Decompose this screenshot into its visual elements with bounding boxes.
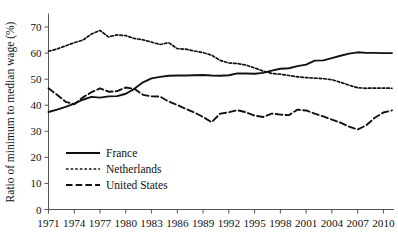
- chart-container: Ratio of minimum to median wage (%) 0102…: [0, 0, 398, 242]
- y-tick-label: 10: [31, 177, 43, 189]
- x-tick-label: 1971: [37, 217, 59, 229]
- x-tick-label: 1974: [63, 217, 86, 229]
- y-axis-title-text: Ratio of minimum to median wage (%): [4, 21, 17, 202]
- chart-axes: [49, 14, 395, 210]
- chart-series: [49, 30, 393, 129]
- y-tick-label: 70: [31, 21, 43, 33]
- x-tick-label: 1989: [192, 217, 215, 229]
- x-tick-label: 1998: [269, 217, 292, 229]
- y-axis-title: Ratio of minimum to median wage (%): [4, 21, 17, 202]
- y-tick-label: 30: [31, 125, 43, 137]
- x-tick-label: 1977: [89, 217, 112, 229]
- x-tick-label: 1983: [140, 217, 163, 229]
- y-tick-label: 60: [31, 47, 43, 59]
- series-line-netherlands: [49, 30, 393, 88]
- legend-label-france: France: [106, 147, 137, 159]
- chart-legend: FranceNetherlandsUnited States: [66, 147, 168, 191]
- x-tick-label: 1995: [243, 217, 266, 229]
- x-tick-label: 2010: [372, 217, 395, 229]
- x-tick-label: 1980: [115, 217, 138, 229]
- x-tick-label: 2004: [321, 217, 344, 229]
- y-axis-tick-labels: 010203040506070: [31, 21, 49, 215]
- x-tick-label: 1992: [218, 217, 240, 229]
- y-tick-label: 20: [31, 151, 43, 163]
- x-tick-label: 2007: [346, 217, 369, 229]
- x-tick-label: 2001: [295, 217, 317, 229]
- y-tick-label: 50: [31, 73, 43, 85]
- x-tick-label: 1986: [166, 217, 189, 229]
- series-line-united-states: [49, 88, 393, 130]
- y-tick-label: 40: [31, 99, 43, 111]
- x-axis-tick-labels: 1971197419771980198319861989199219951998…: [37, 210, 395, 229]
- legend-label-netherlands: Netherlands: [106, 163, 162, 175]
- line-chart: Ratio of minimum to median wage (%) 0102…: [0, 0, 398, 242]
- y-tick-label: 0: [36, 204, 42, 216]
- legend-label-united-states: United States: [106, 179, 168, 191]
